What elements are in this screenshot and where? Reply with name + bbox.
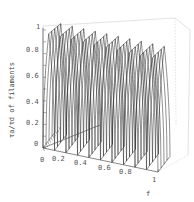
surface-plot: 1 0.8 0.6 0.4 0.2 0 τa/τd of filaments 0… bbox=[0, 0, 194, 202]
x-tick-0.6: 0.6 bbox=[98, 164, 111, 172]
y-tick-0.2: 0.2 bbox=[26, 119, 39, 127]
x-tick-0.8: 0.8 bbox=[119, 168, 132, 176]
y-axis-label: τa/τd of filaments bbox=[8, 62, 16, 138]
y-tick-0.6: 0.6 bbox=[26, 72, 39, 80]
y-axis: 1 0.8 0.6 0.4 0.2 0 τa/τd of filaments bbox=[8, 23, 46, 148]
y-tick-0.8: 0.8 bbox=[26, 46, 39, 54]
y-tick-1: 1 bbox=[36, 23, 40, 31]
y-tick-0.4: 0.4 bbox=[26, 98, 39, 106]
x-tick-0: 0 bbox=[40, 156, 44, 164]
x-tick-0.2: 0.2 bbox=[52, 155, 65, 163]
wireframe-surface bbox=[43, 24, 170, 172]
x-tick-0.4: 0.4 bbox=[74, 159, 87, 167]
x-axis-label: f bbox=[146, 190, 150, 198]
x-tick-1: 1 bbox=[152, 176, 156, 184]
y-tick-0: 0 bbox=[34, 140, 38, 148]
